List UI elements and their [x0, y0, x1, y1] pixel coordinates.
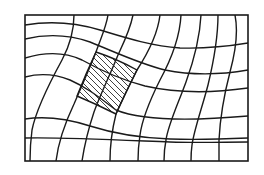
horizontal-curve-4 [25, 75, 248, 119]
horizontal-curve-3 [25, 54, 248, 92]
grid-diagram [0, 0, 264, 175]
distorted-grid-figure [0, 0, 264, 175]
grid-lines [25, 15, 248, 161]
hatched-cell [60, 30, 198, 168]
horizontal-curve-5 [25, 118, 248, 140]
